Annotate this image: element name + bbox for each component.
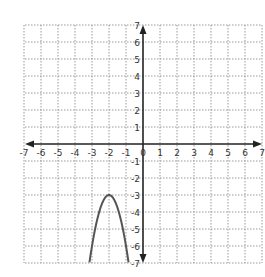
x-tick-label: 7 — [259, 148, 265, 158]
x-tick-label: -5 — [54, 148, 63, 158]
y-axis-down-arrow-icon — [140, 254, 147, 263]
x-tick-labels: -7-6-5-4-3-2-101234567 — [20, 148, 265, 158]
x-tick-label: -1 — [122, 148, 131, 158]
y-axis-up-arrow-icon — [140, 25, 147, 34]
y-tick-label: 6 — [134, 38, 140, 48]
x-tick-label: -3 — [88, 148, 97, 158]
y-tick-label: 4 — [134, 72, 140, 82]
axes — [25, 25, 262, 263]
x-tick-label: -7 — [20, 148, 29, 158]
x-tick-label: 4 — [208, 148, 214, 158]
y-tick-label: 3 — [134, 89, 140, 99]
x-axis-left-arrow-icon — [25, 141, 34, 148]
y-tick-label: 1 — [134, 123, 140, 133]
y-tick-label: -4 — [131, 208, 140, 218]
x-tick-label: 3 — [191, 148, 197, 158]
x-tick-label: 5 — [225, 148, 231, 158]
x-tick-label: 1 — [157, 148, 163, 158]
y-tick-label: -5 — [131, 225, 140, 235]
y-tick-label: -7 — [131, 259, 140, 269]
y-tick-label: -1 — [131, 157, 140, 167]
y-tick-label: -3 — [131, 191, 140, 201]
y-tick-label: 2 — [134, 106, 140, 116]
coordinate-plane: -7-6-5-4-3-2-101234567 -7-6-5-4-3-2-1123… — [0, 0, 265, 277]
x-tick-label: -4 — [71, 148, 80, 158]
x-tick-label: -2 — [105, 148, 114, 158]
x-tick-label: -6 — [37, 148, 46, 158]
y-tick-label: 7 — [134, 21, 140, 31]
y-tick-label: -6 — [131, 242, 140, 252]
y-tick-label: -2 — [131, 174, 140, 184]
x-tick-label: 6 — [242, 148, 248, 158]
x-tick-label: 2 — [174, 148, 180, 158]
x-axis-right-arrow-icon — [253, 141, 262, 148]
x-tick-label: 0 — [140, 148, 146, 158]
y-tick-label: 5 — [134, 55, 140, 65]
